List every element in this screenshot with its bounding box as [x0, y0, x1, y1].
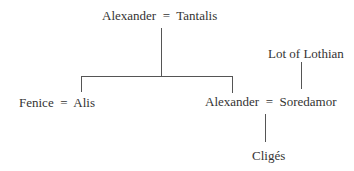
connector-lot-vertical: [301, 62, 302, 89]
connector-top-vertical: [161, 28, 162, 76]
family-tree-diagram: Alexander = Tantalis Fenice = Alis Lot o…: [0, 0, 354, 171]
connector-horizontal: [81, 76, 233, 77]
node-cliges: Cligés: [252, 149, 285, 162]
node-fenice-alis: Fenice = Alis: [19, 96, 95, 109]
connector-left-drop: [81, 76, 82, 92]
node-lot-of-lothian: Lot of Lothian: [268, 47, 344, 60]
node-alexander-soredamor: Alexander = Soredamor: [205, 95, 337, 108]
node-alexander-tantalis: Alexander = Tantalis: [102, 9, 217, 22]
connector-child-vertical: [265, 114, 266, 142]
connector-right-drop: [232, 76, 233, 93]
